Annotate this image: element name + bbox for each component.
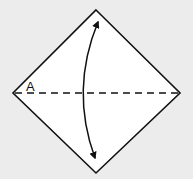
diagram-svg: A	[0, 0, 193, 179]
paper-square-diamond	[13, 10, 180, 173]
origami-diagram: A	[0, 0, 193, 179]
point-label-a: A	[26, 79, 35, 94]
